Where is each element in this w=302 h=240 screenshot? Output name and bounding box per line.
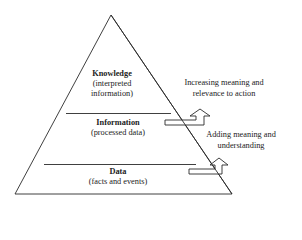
- arrow-up-icon: [165, 109, 210, 125]
- level-knowledge: Knowledge (interpreted information): [72, 69, 152, 99]
- level-subtitle: (processed data): [68, 128, 168, 138]
- annotation-line: understanding: [194, 141, 288, 152]
- annotation-adding-meaning: Adding meaning and understanding: [194, 130, 288, 151]
- level-subtitle: information): [72, 89, 152, 99]
- level-subtitle: (interpreted: [72, 79, 152, 89]
- level-title: Information: [68, 118, 168, 128]
- level-data: Data (facts and events): [68, 167, 168, 187]
- annotation-line: Increasing meaning and: [168, 78, 280, 89]
- arrow-up-icon: [189, 158, 228, 174]
- annotation-increasing-meaning: Increasing meaning and relevance to acti…: [168, 78, 280, 99]
- level-title: Knowledge: [72, 69, 152, 79]
- level-subtitle: (facts and events): [68, 177, 168, 187]
- level-information: Information (processed data): [68, 118, 168, 138]
- annotation-line: relevance to action: [168, 89, 280, 100]
- level-title: Data: [68, 167, 168, 177]
- annotation-line: Adding meaning and: [194, 130, 288, 141]
